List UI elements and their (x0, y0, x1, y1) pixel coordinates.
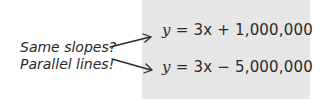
arrow-1-icon (110, 34, 151, 47)
arrows (0, 0, 320, 105)
arrow-2-icon (112, 59, 152, 73)
